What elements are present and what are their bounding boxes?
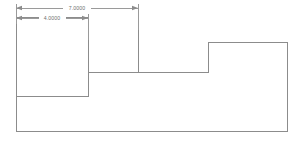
arrowhead-left-segment-end: [82, 16, 88, 20]
geometry-group: [16, 17, 287, 131]
arrowhead-left-overall: [16, 6, 22, 10]
cad-drawing-canvas: 7.0000 4.0000: [0, 0, 304, 144]
arrowhead-left-segment-start: [16, 16, 22, 20]
drawing-svg-surface: 7.0000 4.0000: [0, 0, 304, 144]
profile-inner-step-left: [16, 17, 88, 131]
profile-outline-main: [16, 17, 287, 131]
left-segment-dimension[interactable]: 4.0000: [16, 14, 88, 21]
arrowhead-right-overall: [132, 6, 138, 10]
overall-width-dimension[interactable]: 7.0000: [16, 4, 138, 11]
dimension-label-left-segment: 4.0000: [44, 15, 60, 21]
dimension-label-overall: 7.0000: [69, 5, 85, 11]
